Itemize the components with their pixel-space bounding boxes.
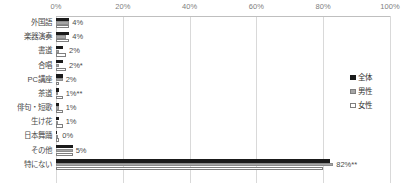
bar-女性 <box>56 167 323 170</box>
legend-swatch-icon <box>350 89 356 95</box>
data-label: 2% <box>66 76 77 84</box>
category-label: 書道 <box>0 48 52 56</box>
category-label: 合唱 <box>0 62 52 70</box>
x-axis-tick-label: 0% <box>50 2 61 11</box>
category-label: 外国語 <box>0 19 52 27</box>
bar-女性 <box>56 138 59 141</box>
category-label: 茶道 <box>0 90 52 98</box>
bar-女性 <box>56 68 66 71</box>
category-label: 楽器演奏 <box>0 34 52 42</box>
bar-女性 <box>56 96 63 99</box>
data-label: 1% <box>66 104 77 112</box>
legend-item[interactable]: 女性 <box>350 100 402 111</box>
chart-row: その他5% <box>0 144 406 158</box>
legend-item[interactable]: 男性 <box>350 86 402 97</box>
data-label: 1%** <box>66 90 83 98</box>
chart-row: PC講座2% <box>0 73 406 87</box>
plot-area: 外国語4%楽器演奏4%書道2%合唱2%*PC講座2%茶道1%**俳句・短歌1%生… <box>0 16 406 183</box>
x-axis-tick-label: 60% <box>249 2 264 11</box>
data-label: 4% <box>72 19 83 27</box>
bar-女性 <box>56 39 69 42</box>
chart-row: 書道2% <box>0 44 406 58</box>
chart-row: 茶道1%** <box>0 87 406 101</box>
legend-label: 女性 <box>358 102 372 110</box>
chart-row: 生け花1% <box>0 115 406 129</box>
category-label: PC講座 <box>0 76 52 84</box>
x-axis-tick-labels: 0%20%40%60%80%100% <box>0 0 406 16</box>
legend-swatch-icon <box>350 75 356 81</box>
chart-legend: 全体男性女性 <box>350 72 402 114</box>
bar-女性 <box>56 153 73 156</box>
legend-label: 男性 <box>358 88 372 96</box>
chart-row: 特にない82%** <box>0 158 406 172</box>
legend-item[interactable]: 全体 <box>350 72 402 83</box>
bar-女性 <box>56 25 69 28</box>
data-label: 5% <box>76 147 87 155</box>
category-label: 生け花 <box>0 119 52 127</box>
x-axis-tick-label: 40% <box>182 2 197 11</box>
x-axis-tick-label: 20% <box>115 2 130 11</box>
chart-row: 俳句・短歌1% <box>0 101 406 115</box>
data-label: 4% <box>72 34 83 42</box>
category-label: 日本舞踊 <box>0 133 52 141</box>
chart-row: 楽器演奏4% <box>0 30 406 44</box>
bar-女性 <box>56 110 63 113</box>
x-axis-tick-label: 100% <box>380 2 400 11</box>
bar-女性 <box>56 53 66 56</box>
legend-swatch-icon <box>350 103 356 109</box>
data-label: 82%** <box>336 161 357 169</box>
bar-女性 <box>56 82 59 85</box>
chart-row: 外国語4% <box>0 16 406 30</box>
data-label: 2% <box>69 48 80 56</box>
category-label: 俳句・短歌 <box>0 104 52 112</box>
category-label: その他 <box>0 147 52 155</box>
chart-row: 日本舞踊0% <box>0 129 406 143</box>
data-label: 1% <box>66 119 77 127</box>
data-label: 2%* <box>69 62 83 70</box>
chart-row: 合唱2%* <box>0 59 406 73</box>
x-axis-tick-label: 80% <box>316 2 331 11</box>
legend-label: 全体 <box>358 74 372 82</box>
data-label: 0% <box>62 133 73 141</box>
horizontal-bar-chart: 0%20%40%60%80%100% 外国語4%楽器演奏4%書道2%合唱2%*P… <box>0 0 406 189</box>
category-label: 特にない <box>0 161 52 169</box>
bar-女性 <box>56 124 63 127</box>
